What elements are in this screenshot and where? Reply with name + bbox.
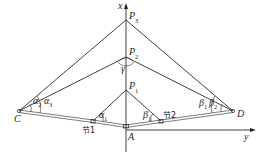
beta1-d-sub: 1 [204,103,207,110]
point-d-label: D [236,108,245,119]
node2-label: 节2 [163,111,176,120]
point-a-label: A [127,131,135,142]
alpha1-sub: 1 [104,115,107,122]
line-p1-node1 [93,90,126,121]
y-axis-label: y [243,131,249,142]
y-axis-arrow-icon [250,128,256,132]
p2-sub: 2 [135,53,138,60]
point-c-label: C [14,113,21,124]
x-axis-label: x [117,0,123,11]
gamma-label: γ [121,63,126,74]
x-axis-arrow-icon [124,3,128,9]
geometry-diagram: x y P 3 P 2 P 1 A C D 节1 节2 γ α 2 α 3 α … [0,0,260,156]
p3-sub: 3 [135,17,138,24]
node1-label: 节1 [82,126,95,135]
p1-sub: 1 [135,87,138,94]
alpha2-sub: 2 [38,101,41,108]
beta1-sub: 1 [148,115,151,122]
beta2-sub: 2 [214,103,217,110]
alpha3-sub: 3 [49,101,52,108]
